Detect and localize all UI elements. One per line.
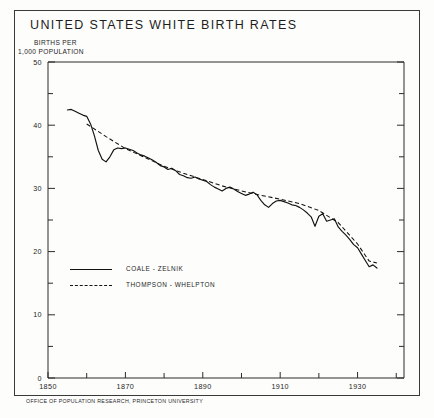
series-line-thompson-whelpton: [87, 124, 377, 263]
y-tick-label: 10: [33, 310, 42, 319]
y-axis-ticks: 01020304050: [33, 58, 404, 383]
legend-entry-thompson-whelpton: THOMPSON - WHELPTON: [70, 277, 215, 293]
legend-label-thompson-whelpton: THOMPSON - WHELPTON: [126, 282, 215, 288]
series-line-coale-zelnik: [67, 109, 377, 268]
solid-line-icon: [70, 266, 112, 273]
axis-frame: [48, 62, 404, 378]
x-tick-label: 1890: [194, 382, 212, 391]
x-tick-label: 1870: [117, 382, 135, 391]
x-tick-label: 1850: [39, 382, 57, 391]
source-note: OFFICE OF POPULATION RESEARCH, PRINCETON…: [26, 398, 203, 404]
y-tick-label: 50: [33, 58, 42, 67]
x-tick-label: 1910: [271, 382, 289, 391]
dashed-line-icon: [70, 282, 112, 289]
x-tick-label: 1930: [349, 382, 367, 391]
x-axis-ticks: 18501870189019101930: [39, 372, 396, 391]
y-tick-label: 20: [33, 247, 42, 256]
legend: COALE - ZELNIK THOMPSON - WHELPTON: [70, 261, 215, 293]
figure-root: UNITED STATES WHITE BIRTH RATES BIRTHS P…: [0, 0, 434, 418]
legend-label-coale-zelnik: COALE - ZELNIK: [126, 266, 183, 272]
y-tick-label: 30: [33, 184, 42, 193]
plot-area: 01020304050 18501870189019101930: [0, 0, 434, 418]
legend-entry-coale-zelnik: COALE - ZELNIK: [70, 261, 215, 277]
data-series-layer: [67, 109, 377, 268]
y-tick-label: 40: [33, 121, 42, 130]
